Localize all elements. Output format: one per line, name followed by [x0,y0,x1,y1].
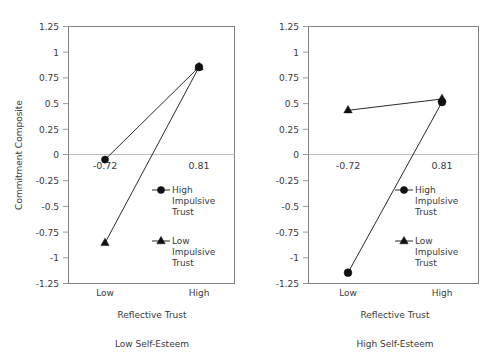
y-tick-label: 1.25 [39,22,59,32]
legend-label-high-impulsive-trust-line2: Impulsive [172,196,216,206]
y-tick-label: -1 [50,253,59,263]
x-tick-label-high: High [189,288,210,298]
y-tick-label: 0 [53,150,59,160]
y-tick-label: -0.25 [276,176,299,186]
x-value-label: -0.72 [336,160,361,171]
panel-caption: High Self-Esteem [357,339,434,349]
legend-label-high-impulsive-trust-line1: High [172,185,193,195]
legend-label-high-impulsive-trust-line3: Trust [414,207,437,217]
legend-label-low-impulsive-trust-line3: Trust [171,258,194,268]
legend-label-high-impulsive-trust-line2: Impulsive [415,196,459,206]
legend: High Impulsive Trust Low Impulsive Trust [152,185,216,268]
y-axis-ticks [63,27,69,284]
y-tick-label: 0.25 [39,125,59,135]
y-tick-label: -0.75 [36,228,59,238]
y-tick-label: -0.25 [36,176,59,186]
y-tick-label: -0.75 [276,228,299,238]
circle-marker [195,63,203,71]
y-tick-label: 1 [293,48,299,58]
x-value-label: 0.81 [188,160,209,171]
legend-label-high-impulsive-trust-line1: High [415,185,436,195]
y-tick-label: 1 [53,48,59,58]
y-tick-label: -0.5 [281,202,299,212]
triangle-marker [157,236,165,243]
figure-container: 1.25 1 0.75 0.5 0.25 0 -0.25 -0.5 -0.75 … [0,0,493,361]
y-tick-label: 0.25 [279,125,299,135]
y-tick-label: -0.5 [41,202,59,212]
y-tick-label: 0.75 [39,73,59,83]
legend-label-high-impulsive-trust-line3: Trust [171,207,194,217]
panel-low-self-esteem: 1.25 1 0.75 0.5 0.25 0 -0.25 -0.5 -0.75 … [0,0,246,361]
legend-label-low-impulsive-trust-line2: Impulsive [172,247,216,257]
legend-label-low-impulsive-trust-line2: Impulsive [415,247,459,257]
x-value-label: 0.81 [431,160,452,171]
triangle-marker [438,94,446,101]
y-tick-label: 0 [293,150,299,160]
y-axis-title: Commitment Composite [14,100,24,210]
y-tick-label: -1.25 [276,279,299,289]
series-line-low-impulsive-trust [348,99,442,110]
series-line-high-impulsive-trust [105,67,199,160]
x-tick-label-low: Low [339,288,357,298]
legend-label-low-impulsive-trust-line3: Trust [414,258,437,268]
y-tick-label: 0.5 [45,99,59,109]
y-tick-label: 1.25 [279,22,299,32]
circle-marker [344,269,352,277]
y-axis-ticks [303,27,309,284]
legend: High Impulsive Trust Low Impulsive Trust [395,185,459,268]
x-axis-title: Reflective Trust [360,310,430,320]
circle-marker [400,186,407,193]
panel-high-self-esteem: 1.25 1 0.75 0.5 0.25 0 -0.25 -0.5 -0.75 … [247,0,493,361]
legend-label-low-impulsive-trust-line1: Low [415,236,433,246]
legend-label-low-impulsive-trust-line1: Low [172,236,190,246]
triangle-marker [101,238,109,245]
triangle-marker [400,236,408,243]
y-tick-label: 0.75 [279,73,299,83]
triangle-marker [344,106,352,113]
y-tick-label: 0.5 [285,99,299,109]
x-value-label: -0.72 [93,160,118,171]
x-axis-title: Reflective Trust [117,310,187,320]
x-tick-label-low: Low [96,288,114,298]
plot-area-low-self-esteem: 1.25 1 0.75 0.5 0.25 0 -0.25 -0.5 -0.75 … [0,0,246,361]
y-tick-label: -1.25 [36,279,59,289]
circle-marker [157,186,164,193]
y-tick-label: -1 [290,253,299,263]
panel-caption: Low Self-Esteem [115,339,189,349]
x-tick-label-high: High [432,288,453,298]
plot-area-high-self-esteem: 1.25 1 0.75 0.5 0.25 0 -0.25 -0.5 -0.75 … [247,0,493,361]
